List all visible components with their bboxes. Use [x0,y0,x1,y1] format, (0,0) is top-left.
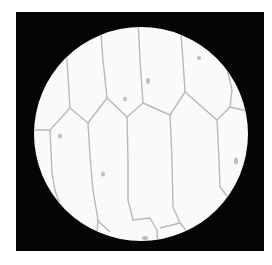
microscope-field-of-view [0,0,272,265]
bright-field-circle [34,27,248,241]
